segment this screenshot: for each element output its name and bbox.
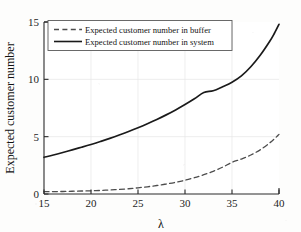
line-chart: 152025303540 051015 λ Expected customer …: [0, 0, 301, 232]
x-tick-label: 40: [274, 197, 286, 209]
legend-label-buffer: Expected customer number in buffer: [85, 25, 211, 35]
x-tick-label: 35: [227, 197, 239, 209]
legend-label-system: Expected customer number in system: [85, 37, 214, 47]
y-tick-label: 5: [34, 131, 40, 143]
x-axis-title: λ: [158, 217, 164, 231]
figure-container: 152025303540 051015 λ Expected customer …: [0, 0, 301, 232]
y-tick-label: 10: [28, 73, 40, 85]
x-tick-labels: 152025303540: [39, 197, 286, 209]
y-tick-labels: 051015: [28, 16, 40, 200]
x-tick-label: 15: [39, 197, 51, 209]
x-tick-label: 20: [86, 197, 98, 209]
x-tick-label: 25: [133, 197, 145, 209]
y-tick-label: 0: [34, 188, 40, 200]
y-axis-title: Expected customer number: [3, 42, 17, 173]
chart-legend[interactable]: Expected customer number in buffer Expec…: [48, 21, 232, 51]
y-tick-label: 15: [28, 16, 40, 28]
x-tick-label: 30: [180, 197, 192, 209]
